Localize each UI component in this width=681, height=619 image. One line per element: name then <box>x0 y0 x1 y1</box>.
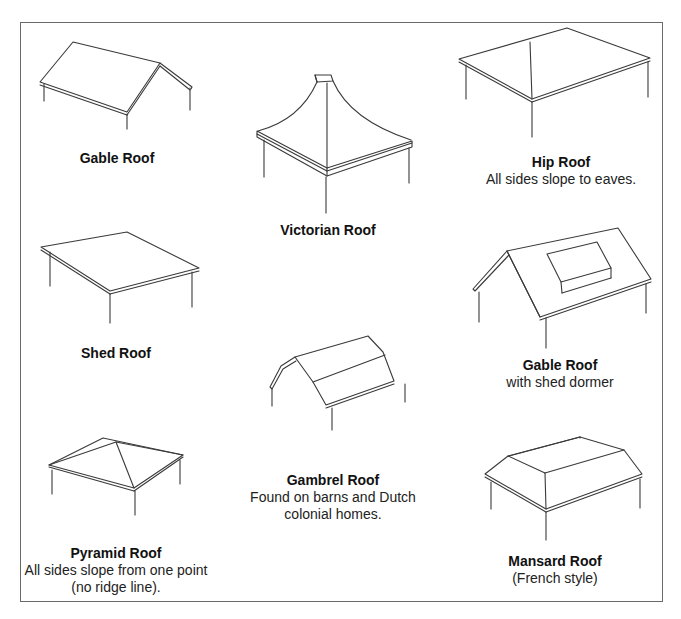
roof-title: Gable Roof <box>80 150 155 167</box>
hip-roof-caption: Hip Roof All sides slope to eaves. <box>486 154 636 188</box>
shed-roof-illustration <box>41 232 199 323</box>
victorian-roof-illustration <box>257 75 412 213</box>
roof-title: Gable Roof <box>506 357 613 374</box>
roof-title: Mansard Roof <box>508 553 601 570</box>
roof-description-line1: All sides slope from one point <box>25 562 208 579</box>
gable-dormer-roof-caption: Gable Roof with shed dormer <box>506 357 613 391</box>
roof-illustrations <box>0 0 681 619</box>
gable-roof-illustration <box>40 42 192 129</box>
roof-title: Victorian Roof <box>280 222 375 239</box>
mansard-roof-caption: Mansard Roof (French style) <box>508 553 601 587</box>
roof-title: Gambrel Roof <box>250 472 416 489</box>
pyramid-roof-illustration <box>49 438 183 515</box>
roof-description: with shed dormer <box>506 374 613 391</box>
hip-roof-illustration <box>459 28 650 137</box>
gambrel-roof-caption: Gambrel Roof Found on barns and Dutch co… <box>250 472 416 523</box>
gambrel-roof-illustration <box>270 336 405 430</box>
roof-title: Pyramid Roof <box>25 545 208 562</box>
roof-description: (French style) <box>508 570 601 587</box>
roof-description-line2: (no ridge line). <box>25 579 208 596</box>
roof-title: Shed Roof <box>81 345 151 362</box>
mansard-roof-illustration <box>485 437 642 540</box>
gable-dormer-roof-illustration <box>473 228 651 348</box>
pyramid-roof-caption: Pyramid Roof All sides slope from one po… <box>25 545 208 596</box>
roof-description-line1: Found on barns and Dutch <box>250 489 416 506</box>
gable-roof-caption: Gable Roof <box>80 150 155 167</box>
roof-description: All sides slope to eaves. <box>486 171 636 188</box>
victorian-roof-caption: Victorian Roof <box>280 222 375 239</box>
shed-roof-caption: Shed Roof <box>81 345 151 362</box>
roof-title: Hip Roof <box>486 154 636 171</box>
roof-description-line2: colonial homes. <box>250 506 416 523</box>
